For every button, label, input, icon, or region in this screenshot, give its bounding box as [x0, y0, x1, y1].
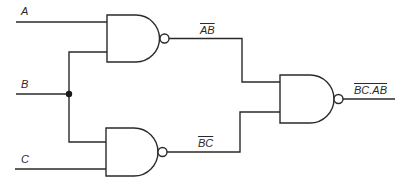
nand-gate-3-bubble — [334, 95, 343, 104]
nand-gate-1-bubble — [160, 34, 169, 43]
wire-b-to-nand1 — [69, 52, 107, 94]
nand-gate-2 — [106, 128, 158, 176]
label-input-c: C — [21, 154, 29, 165]
junction-dot-b — [66, 91, 72, 97]
label-final-output: BC.AB — [354, 85, 387, 96]
label-input-b: B — [21, 79, 28, 90]
nand-gate-3 — [280, 75, 334, 123]
wire-b-to-nand2 — [69, 94, 106, 142]
wire-nand1-out — [169, 39, 280, 83]
label-nand1-output: AB — [200, 25, 215, 36]
label-input-a: A — [21, 6, 28, 17]
label-nand2-output: BC — [198, 138, 213, 149]
nand-gate-1 — [107, 15, 160, 62]
nand-gate-2-bubble — [158, 148, 167, 157]
wire-nand2-out — [167, 112, 280, 152]
